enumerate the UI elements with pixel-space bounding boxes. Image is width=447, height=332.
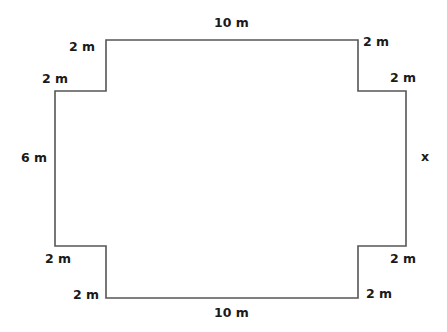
right-side-label-x: x [421, 151, 429, 164]
top-left-step-horizontal-label: 2 m [42, 73, 68, 86]
bottom-right-step-horizontal-label: 2 m [390, 253, 416, 266]
top-left-step-vertical-label: 2 m [69, 41, 95, 54]
shape-outline [0, 0, 447, 332]
top-right-step-horizontal-label: 2 m [390, 72, 416, 85]
bottom-side-label: 10 m [214, 307, 249, 320]
bottom-left-step-horizontal-label: 2 m [45, 253, 71, 266]
left-side-label: 6 m [21, 152, 47, 165]
bottom-left-step-vertical-label: 2 m [73, 289, 99, 302]
top-side-label: 10 m [214, 17, 249, 30]
top-right-step-vertical-label: 2 m [363, 36, 389, 49]
perimeter-diagram: 10 m 10 m 6 m x 2 m 2 m 2 m 2 m 2 m 2 m … [0, 0, 447, 332]
bottom-right-step-vertical-label: 2 m [366, 288, 392, 301]
cross-shaped-polygon [55, 40, 406, 298]
